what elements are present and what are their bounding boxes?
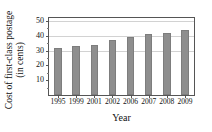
bar xyxy=(163,33,171,95)
gridline xyxy=(49,36,194,37)
bar xyxy=(145,34,153,95)
x-axis-tick-label: 2006 xyxy=(123,98,138,106)
y-axis-tick-label: 40 xyxy=(36,32,44,40)
x-axis-tick-label: 2001 xyxy=(87,98,102,106)
y-axis-tick xyxy=(46,80,49,81)
plot-area: 1020304050199519992001200220062007200820… xyxy=(48,17,195,96)
y-axis-tick xyxy=(46,21,49,22)
bar xyxy=(54,48,62,95)
gridline xyxy=(49,21,194,22)
x-axis-title: Year xyxy=(48,112,195,123)
y-axis-title-line1: Cost of first-class postage xyxy=(4,11,14,109)
x-axis-tick-label: 2008 xyxy=(159,98,174,106)
clipped-top-artifact: · · xyxy=(6,0,60,4)
y-axis-minor-tick xyxy=(47,58,49,59)
y-axis-tick-label: 50 xyxy=(36,17,44,25)
bar xyxy=(72,46,80,95)
x-axis-tick-label: 2007 xyxy=(141,98,156,106)
bar xyxy=(91,45,99,95)
x-axis-tick-label: 2009 xyxy=(177,98,192,106)
y-axis-minor-tick xyxy=(47,43,49,44)
bar xyxy=(127,37,135,95)
y-axis-minor-tick xyxy=(47,28,49,29)
gridline xyxy=(49,51,194,52)
y-axis-minor-tick xyxy=(47,88,49,89)
y-axis-tick-label: 30 xyxy=(36,47,44,55)
y-axis-title: Cost of first-class postage (in cents) xyxy=(0,8,30,112)
postage-cost-bar-chart: · · Cost of first-class postage (in cent… xyxy=(0,0,212,132)
x-axis-tick-label: 1995 xyxy=(51,98,66,106)
y-axis-tick xyxy=(46,65,49,66)
y-axis-tick-label: 20 xyxy=(36,61,44,69)
bar xyxy=(181,30,189,95)
y-axis-minor-tick xyxy=(47,73,49,74)
y-axis-title-line2: (in cents) xyxy=(15,11,26,109)
y-axis-tick-label: 10 xyxy=(36,76,44,84)
x-axis-tick-label: 2002 xyxy=(105,98,120,106)
x-axis-tick-label: 1999 xyxy=(69,98,84,106)
bar xyxy=(109,40,117,95)
y-axis-tick xyxy=(46,51,49,52)
y-axis-tick xyxy=(46,36,49,37)
